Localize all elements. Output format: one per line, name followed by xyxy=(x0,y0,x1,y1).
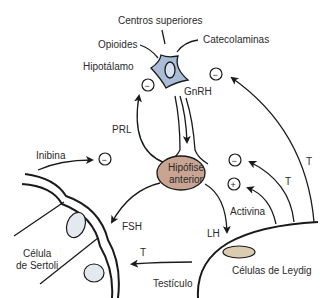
gnrh-axon-right xyxy=(186,98,208,164)
svg-text:−: − xyxy=(232,156,237,166)
prl-arrow xyxy=(137,96,165,163)
sign-inhibin: − xyxy=(99,153,111,165)
gnrh-axon-left xyxy=(175,96,180,150)
hpg-axis-diagram: Centros superiores Opioides Catecolamina… xyxy=(0,0,336,298)
label-testis: Testículo xyxy=(153,278,193,289)
hypothalamus-neuron xyxy=(151,55,188,88)
label-pituitary-2: anterior xyxy=(169,174,204,185)
label-inhibin: Inibina xyxy=(36,150,66,161)
sign-hypothalamus-prl: − xyxy=(142,79,154,91)
sign-activin: + xyxy=(228,178,240,190)
sign-pituitary-t: − xyxy=(229,154,241,166)
label-t-lower: T xyxy=(140,247,146,258)
leydig-cells xyxy=(223,246,255,258)
anterior-pituitary: Hipófise anterior xyxy=(157,156,205,190)
svg-text:−: − xyxy=(102,155,107,165)
label-opioids: Opioides xyxy=(98,39,137,50)
label-higher-centers: Centros superiores xyxy=(118,15,202,26)
label-fsh: FSH xyxy=(122,221,142,232)
label-gnrh: GnRH xyxy=(184,86,212,97)
svg-text:−: − xyxy=(145,81,150,91)
lh-arrow xyxy=(205,184,227,232)
opioids-line xyxy=(140,45,158,58)
t-arrow-sertoli xyxy=(132,262,192,264)
label-sertoli-2: de Sertoli xyxy=(16,260,58,271)
fsh-arrow xyxy=(112,183,160,222)
sertoli-tubule xyxy=(14,174,119,298)
t-arrow-hypothalamus xyxy=(232,78,314,222)
catecholamines-line xyxy=(177,40,198,52)
inhibin-arrow xyxy=(38,160,92,170)
higher-centers-line xyxy=(162,30,165,44)
label-lh: LH xyxy=(207,228,220,239)
label-catecholamines: Catecolaminas xyxy=(203,34,269,45)
gnrh-arrow xyxy=(180,96,187,142)
label-sertoli-1: Célula xyxy=(23,248,52,259)
svg-text:+: + xyxy=(231,180,236,190)
label-activin: Activina xyxy=(230,206,265,217)
label-pituitary-1: Hipófise xyxy=(168,162,205,173)
label-t-middle: T xyxy=(285,176,291,187)
neuron-nucleus xyxy=(165,62,175,78)
label-prl: PRL xyxy=(112,124,132,135)
svg-text:−: − xyxy=(213,70,218,80)
label-hypothalamus: Hipotálamo xyxy=(83,61,134,72)
sign-hypothalamus-t: − xyxy=(210,68,222,80)
label-leydig: Células de Leydig xyxy=(232,265,312,276)
label-t-upper: T xyxy=(306,156,312,167)
